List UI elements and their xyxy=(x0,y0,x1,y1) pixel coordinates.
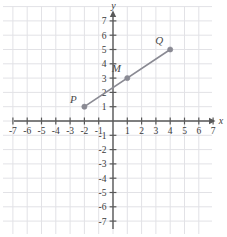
y-axis-name: y xyxy=(110,0,116,11)
y-tick-label: 1 xyxy=(102,102,107,112)
x-tick-label: -5 xyxy=(38,126,46,136)
x-tick-label: 5 xyxy=(182,126,187,136)
axes xyxy=(14,11,216,230)
y-tick-label: -5 xyxy=(99,188,107,198)
grid-lines xyxy=(3,6,212,234)
x-tick-label: -7 xyxy=(9,126,17,136)
x-tick-label: -3 xyxy=(66,126,74,136)
point-marker-P xyxy=(82,104,87,109)
x-tick-label: 3 xyxy=(154,126,159,136)
point-label-M: M xyxy=(111,62,122,74)
x-tick-label: 7 xyxy=(211,126,216,136)
y-tick-label: 4 xyxy=(102,59,107,69)
x-tick-label: 4 xyxy=(168,126,173,136)
y-tick-label: -1 xyxy=(99,131,107,141)
y-tick-label: -7 xyxy=(99,217,107,227)
x-axis-name: x xyxy=(218,115,224,126)
y-tick-label: -6 xyxy=(99,202,107,212)
coordinate-plane-figure: -7-6-5-4-3-2-112345677654321-1-2-3-4-5-6… xyxy=(0,0,227,237)
y-tick-label: 6 xyxy=(102,31,107,41)
y-tick-label: -2 xyxy=(99,145,107,155)
x-tick-label: 6 xyxy=(196,126,201,136)
x-tick-label: 2 xyxy=(139,126,144,136)
graph-canvas: -7-6-5-4-3-2-112345677654321-1-2-3-4-5-6… xyxy=(0,0,227,237)
point-marker-Q xyxy=(168,47,173,52)
y-tick-label: 3 xyxy=(102,74,107,84)
y-tick-label: -4 xyxy=(99,174,107,184)
y-tick-label: 7 xyxy=(102,16,107,26)
point-label-Q: Q xyxy=(155,34,163,46)
y-tick-label: 5 xyxy=(102,45,107,55)
y-axis-arrow xyxy=(110,11,116,18)
point-marker-M xyxy=(125,76,130,81)
y-tick-label: -3 xyxy=(99,159,107,169)
x-tick-label: -6 xyxy=(23,126,31,136)
x-axis-arrow xyxy=(209,118,216,124)
point-label-P: P xyxy=(69,93,77,105)
x-tick-label: -4 xyxy=(52,126,60,136)
x-tick-label: 1 xyxy=(125,126,130,136)
x-tick-label: -2 xyxy=(80,126,88,136)
